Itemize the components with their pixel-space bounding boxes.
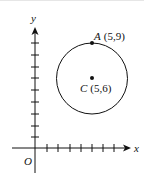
origin-label: O	[24, 155, 32, 167]
y-axis: y	[30, 12, 39, 173]
point-a-label: A(5,9)	[93, 30, 125, 43]
point-c-label: C(5,6)	[80, 82, 112, 95]
x-axis: x	[12, 142, 139, 154]
y-axis-label: y	[30, 12, 36, 24]
point-c: C(5,6)	[80, 76, 112, 95]
point-c-dot	[90, 76, 94, 80]
x-axis-label: x	[133, 142, 139, 154]
coordinate-diagram: x y O A(5,9) C(5,6)	[0, 0, 144, 180]
